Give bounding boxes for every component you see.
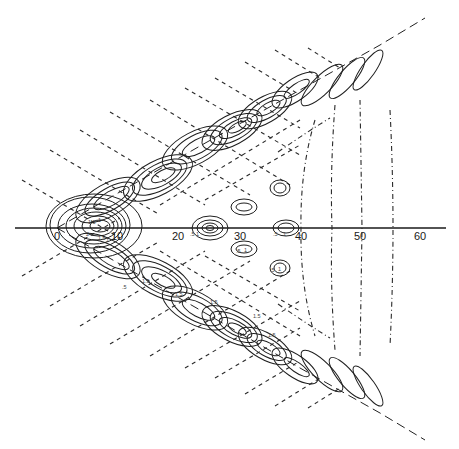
tick-label-50: 50	[354, 230, 366, 242]
svg-text:.5: .5	[236, 248, 241, 254]
svg-text:1.5: 1.5	[210, 299, 218, 305]
svg-text:1.5: 1.5	[175, 291, 183, 297]
svg-text:1: 1	[278, 266, 281, 272]
svg-text:1.5: 1.5	[253, 313, 261, 319]
cusp-line-lower	[278, 304, 330, 338]
svg-text:.5: .5	[190, 231, 195, 237]
svg-text:.5: .5	[122, 284, 127, 290]
tick-label-20: 20	[172, 230, 184, 242]
contour-figure: 0 10 20 30 40 50 60	[0, 0, 459, 449]
tick-label-60: 60	[414, 230, 426, 242]
lower-contour-cells: 1.5 .5 1.5 1.5 1.5 1.5	[69, 224, 388, 410]
svg-text:1: 1	[98, 217, 101, 223]
svg-text:.5: .5	[273, 231, 278, 237]
svg-text:1.5: 1.5	[142, 278, 150, 284]
svg-text:1: 1	[244, 247, 247, 253]
svg-text:1: 1	[283, 231, 286, 237]
cusp-line-upper	[278, 118, 330, 152]
tick-label-30: 30	[234, 230, 246, 242]
svg-text:.5: .5	[270, 267, 275, 273]
svg-text:1: 1	[196, 231, 199, 237]
svg-text:2: 2	[86, 231, 89, 237]
x-axis-tick-labels: 0 10 20 30 40 50 60	[54, 230, 426, 242]
svg-text:1.5: 1.5	[268, 332, 276, 338]
